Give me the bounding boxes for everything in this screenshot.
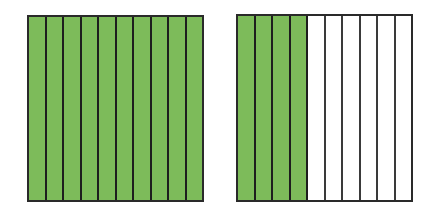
shaded-strip xyxy=(273,16,291,200)
shaded-strip xyxy=(238,16,256,200)
unshaded-strip xyxy=(308,16,326,200)
shaded-strip xyxy=(64,17,82,200)
unshaded-strip xyxy=(361,16,379,200)
unshaded-strip xyxy=(343,16,361,200)
shaded-strip xyxy=(152,17,170,200)
unshaded-strip xyxy=(396,16,412,200)
shaded-strip xyxy=(134,17,152,200)
unshaded-strip xyxy=(326,16,344,200)
unshaded-strip xyxy=(378,16,396,200)
shaded-strip xyxy=(256,16,274,200)
shaded-strip xyxy=(47,17,65,200)
shaded-strip xyxy=(29,17,47,200)
shaded-strip xyxy=(82,17,100,200)
shaded-strip xyxy=(187,17,203,200)
shaded-strip xyxy=(169,17,187,200)
fraction-grid-right xyxy=(236,14,413,202)
shaded-strip xyxy=(291,16,309,200)
shaded-strip xyxy=(99,17,117,200)
shaded-strip xyxy=(117,17,135,200)
fraction-grid-left xyxy=(27,15,204,202)
